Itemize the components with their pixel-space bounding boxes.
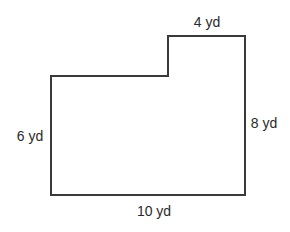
l-shape-outline xyxy=(51,36,245,195)
right-height-label: 8 yd xyxy=(251,115,277,131)
bottom-width-label: 10 yd xyxy=(137,203,171,219)
left-height-label: 6 yd xyxy=(17,128,43,144)
diagram-canvas: 4 yd 6 yd 8 yd 10 yd xyxy=(0,0,290,232)
top-width-label: 4 yd xyxy=(194,14,220,30)
